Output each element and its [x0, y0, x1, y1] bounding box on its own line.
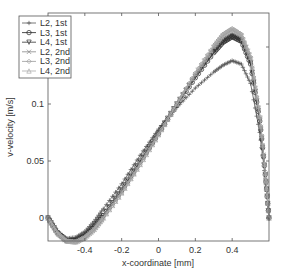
plot-area	[46, 27, 271, 245]
series-line	[46, 35, 271, 243]
legend: L2, 1stL3, 1stL4, 1stL2, 2ndL3, 2ndL4, 2…	[19, 16, 71, 78]
legend-label: L3, 1st	[40, 28, 68, 38]
x-tick-label: 0.4	[226, 245, 239, 255]
legend-label: L2, 1st	[40, 18, 68, 28]
legend-label: L2, 2nd	[40, 47, 70, 57]
x-tick-label: 0	[156, 245, 161, 255]
chart: -0.4-0.200.20.4 00.050.1 x-coordinate [m…	[0, 0, 283, 275]
y-tick-label: 0.1	[31, 99, 44, 109]
y-tick-label: 0	[39, 213, 44, 223]
x-tick-label: -0.2	[114, 245, 130, 255]
x-axis-label: x-coordinate [mm]	[122, 258, 194, 268]
series-line	[46, 27, 271, 245]
x-tick-label: 0.2	[189, 245, 202, 255]
y-axis-label: v-velocity [m/s]	[5, 97, 15, 157]
legend-label: L4, 1st	[40, 37, 68, 47]
series-line	[46, 58, 271, 240]
x-tick-label: -0.4	[77, 245, 93, 255]
series-line	[46, 33, 271, 243]
y-tick-label: 0.05	[26, 156, 44, 166]
legend-label: L3, 2nd	[40, 56, 70, 66]
legend-label: L4, 2nd	[40, 66, 70, 76]
